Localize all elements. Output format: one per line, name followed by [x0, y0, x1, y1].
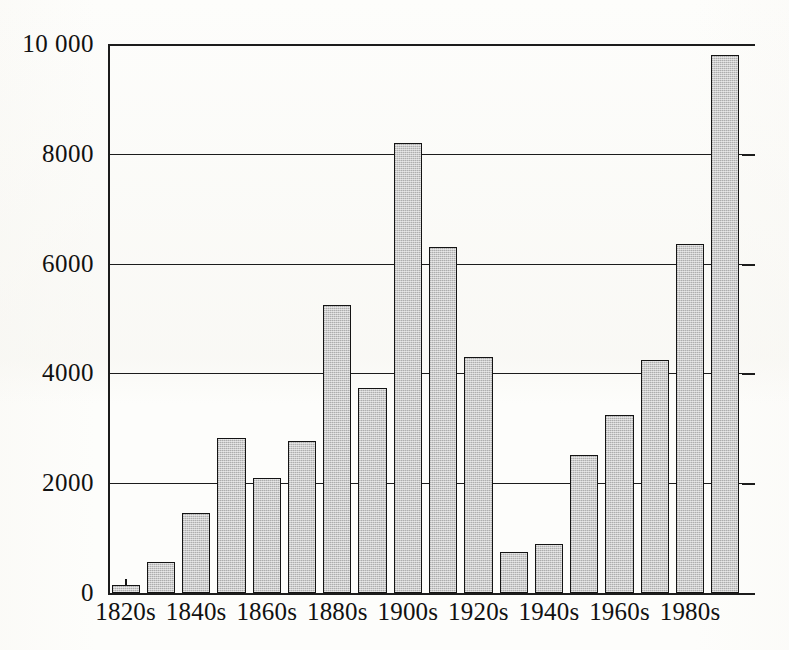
y-tick-label-0: 0 — [81, 579, 94, 607]
y-axis-labels: 10 00080006000400020000 — [0, 44, 94, 593]
bar-1980s — [676, 244, 704, 593]
y-tick-label-6000: 6000 — [42, 250, 94, 278]
right-tick-10000 — [742, 44, 755, 46]
x-tick-label-1920s: 1920s — [448, 598, 509, 626]
right-tick-0 — [742, 593, 755, 595]
bar-1960s — [605, 415, 633, 593]
y-tick-label-2000: 2000 — [42, 469, 94, 497]
bar-1820s — [112, 585, 140, 593]
x-tick-label-1880s: 1880s — [307, 598, 368, 626]
x-tick-label-1900s: 1900s — [377, 598, 438, 626]
bar-series — [108, 44, 743, 593]
bar-1950s — [570, 455, 598, 593]
right-tick-8000 — [742, 154, 755, 156]
bar-1840s — [182, 513, 210, 593]
bar-1830s — [147, 562, 175, 593]
right-tick-4000 — [742, 373, 755, 375]
x-tick-label-1960s: 1960s — [589, 598, 650, 626]
bar-1880s — [323, 305, 351, 593]
right-tick-2000 — [742, 483, 755, 485]
bar-1860s — [253, 478, 281, 593]
y-tick-label-4000: 4000 — [42, 359, 94, 387]
x-tick-label-1840s: 1840s — [166, 598, 227, 626]
bar-1930s — [500, 552, 528, 593]
chart-page: 10 00080006000400020000 1820s1840s1860s1… — [0, 0, 789, 650]
bar-1850s — [217, 438, 245, 593]
x-tick-label-1980s: 1980s — [660, 598, 721, 626]
bar-marker-tick — [125, 579, 127, 586]
bar-1970s — [641, 360, 669, 593]
x-tick-label-1820s: 1820s — [95, 598, 156, 626]
y-tick-label-8000: 8000 — [42, 140, 94, 168]
x-tick-label-1860s: 1860s — [236, 598, 297, 626]
bar-1890s — [358, 388, 386, 593]
bar-1900s — [394, 143, 422, 593]
bar-1870s — [288, 441, 316, 593]
bar-1920s — [464, 357, 492, 593]
bar-1910s — [429, 247, 457, 593]
plot-area — [108, 44, 743, 593]
x-axis-labels: 1820s1840s1860s1880s1900s1920s1940s1960s… — [108, 598, 743, 638]
bar-1990s — [711, 55, 739, 593]
right-tick-6000 — [742, 264, 755, 266]
x-tick-label-1940s: 1940s — [519, 598, 580, 626]
bar-1940s — [535, 544, 563, 593]
gridline-0 — [108, 593, 743, 595]
y-tick-label-10000: 10 000 — [22, 30, 94, 58]
